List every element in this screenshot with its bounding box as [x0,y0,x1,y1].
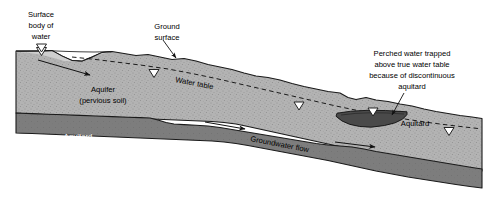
groundwater-cross-section: Surface body of water Ground surface Wat… [0,0,496,205]
diagram-canvas: Surface body of water Ground surface Wat… [0,0,496,205]
surface-water-line-3: water [31,32,51,41]
perched-note-line-2: above true water table [374,60,449,69]
perched-note-line-4: aquitard [398,82,425,91]
aquifer-line-1: Aquifer [91,85,116,94]
surface-water-line-1: Surface [28,10,54,19]
surface-water-line-2: body of [29,21,55,30]
label-perched-note: Perched water trapped above true water t… [369,49,455,91]
label-ground-surface: Ground surface [154,22,179,42]
aquifer-line-2: (pervious soil) [79,96,127,105]
aquitard-main-line-2: (impervious soil [52,143,105,152]
perched-note-line-1: Perched water trapped [374,49,451,58]
perched-note-line-3: because of discontinuous [369,71,455,80]
ground-surface-line-2: surface [155,33,180,42]
aquitard-main-line-3: or rock) [65,154,91,163]
aquitard-main-line-1: Aquitard [64,132,92,141]
ground-surface-leader [163,40,176,58]
label-aquitard-perched: Aquitard [401,119,429,128]
label-surface-body-of-water: Surface body of water [28,10,54,41]
ground-surface-line-1: Ground [154,22,179,31]
